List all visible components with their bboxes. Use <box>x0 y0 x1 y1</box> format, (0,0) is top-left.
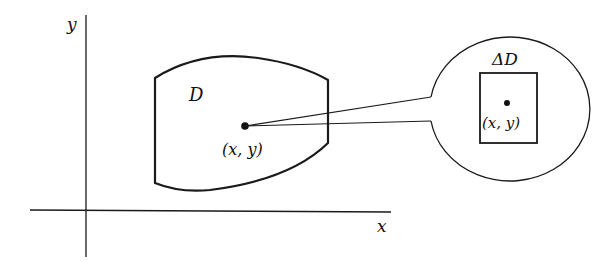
delta-d-label: ΔD <box>491 49 518 69</box>
x-axis <box>30 210 391 212</box>
x-axis-label: x <box>377 216 387 236</box>
point-xy-label: (x, y) <box>222 140 263 159</box>
magnified-point-dot <box>504 100 510 106</box>
diagram-canvas: y x D (x, y) ΔD (x, y) <box>0 0 610 261</box>
magnified-point-label: (x, y) <box>482 114 520 132</box>
region-d-boundary <box>155 56 328 190</box>
region-d-label: D <box>188 84 204 105</box>
y-axis-label: y <box>66 14 77 34</box>
delta-d-rectangle <box>480 73 537 143</box>
